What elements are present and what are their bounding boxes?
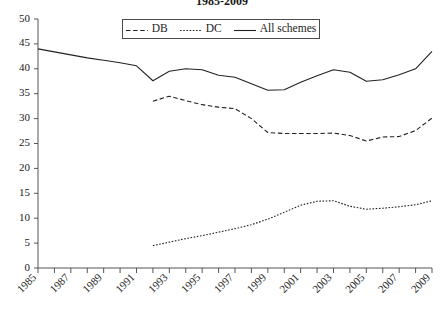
y-tick-label: 50	[19, 12, 31, 24]
dashed-line-swatch	[126, 29, 148, 30]
x-axis: 1985198719891991199319951997199920012003…	[14, 268, 432, 295]
legend-label: DB	[152, 23, 168, 35]
legend-label: All schemes	[260, 23, 317, 35]
x-tick-label: 1993	[146, 271, 170, 295]
line-chart: 1985-2009 05101520253035404550 198519871…	[0, 0, 444, 310]
solid-line-swatch	[234, 29, 256, 30]
x-tick-label: 1995	[179, 271, 203, 295]
y-axis: 05101520253035404550	[19, 12, 38, 273]
y-tick-label: 45	[19, 36, 31, 48]
legend-item-dc: DC	[180, 23, 222, 35]
x-tick-label: 1991	[113, 271, 137, 295]
x-tick-label: 1987	[47, 271, 71, 295]
x-tick-label: 2009	[408, 271, 432, 295]
x-tick-label: 2005	[343, 271, 367, 295]
series-line-dc	[153, 201, 432, 246]
y-tick-label: 15	[19, 186, 31, 198]
x-tick-label: 1999	[244, 271, 268, 295]
dotted-line-swatch	[180, 29, 202, 30]
x-tick-label: 1997	[211, 271, 235, 295]
x-tick-label: 1989	[80, 271, 104, 295]
x-tick-label: 2007	[376, 271, 400, 295]
y-tick-label: 20	[19, 161, 31, 173]
series-line-db	[153, 96, 432, 141]
x-tick-label: 2003	[310, 271, 334, 295]
y-tick-label: 30	[19, 111, 31, 123]
legend-item-all-schemes: All schemes	[234, 23, 317, 35]
y-tick-label: 10	[19, 211, 31, 223]
series-line-all-schemes	[38, 49, 432, 90]
x-tick-label: 2001	[277, 271, 301, 295]
y-tick-label: 35	[19, 86, 31, 98]
chart-legend: DBDCAll schemes	[122, 19, 320, 39]
legend-label: DC	[206, 23, 222, 35]
legend-item-db: DB	[126, 23, 168, 35]
y-tick-label: 40	[19, 61, 31, 73]
plot-area: 05101520253035404550 1985198719891991199…	[0, 0, 444, 310]
x-tick-label: 1985	[14, 271, 38, 295]
series-lines	[38, 49, 432, 246]
y-tick-label: 5	[25, 236, 31, 248]
y-tick-label: 25	[19, 136, 31, 148]
